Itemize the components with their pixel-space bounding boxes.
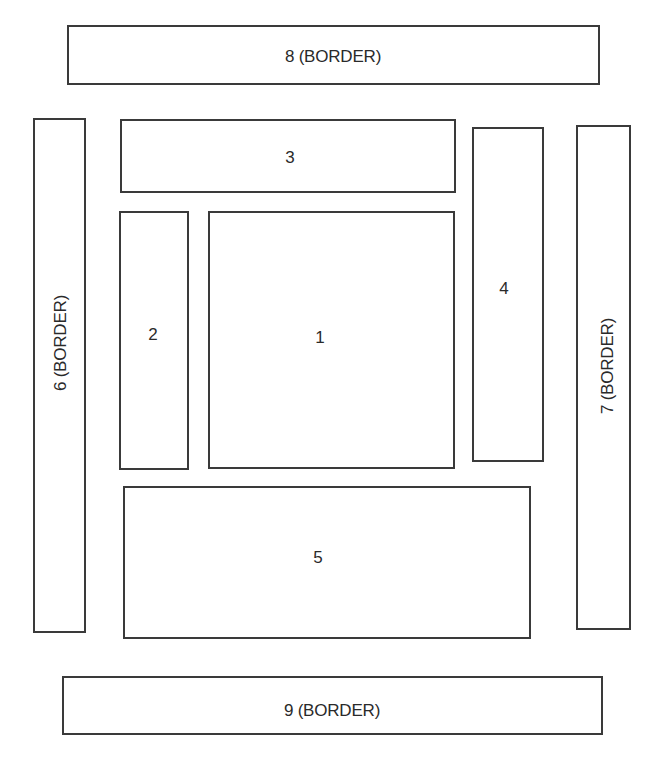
region-1-label: 1	[315, 329, 324, 346]
region-1	[208, 211, 455, 469]
region-5	[123, 486, 531, 639]
region-4-label: 4	[499, 280, 508, 297]
region-2-label: 2	[148, 326, 157, 343]
region-9-label: 9 (BORDER)	[284, 702, 380, 719]
region-5-label: 5	[313, 549, 322, 566]
region-7-label: 7 (BORDER)	[599, 318, 616, 414]
region-6-label: 6 (BORDER)	[52, 295, 69, 391]
region-3-label: 3	[285, 149, 294, 166]
region-8-label: 8 (BORDER)	[285, 48, 381, 65]
